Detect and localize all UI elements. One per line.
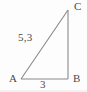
geometry-figure: A B C 5,3 3 — [0, 0, 87, 92]
hypotenuse-line — [21, 10, 68, 79]
hypotenuse-length-label: 5,3 — [18, 32, 32, 43]
vertex-label-c: C — [74, 1, 81, 12]
bottom-edge-strip — [0, 90, 87, 92]
vertex-label-b: B — [73, 73, 80, 84]
vertex-label-a: A — [9, 73, 17, 84]
base-length-label: 3 — [40, 79, 46, 90]
